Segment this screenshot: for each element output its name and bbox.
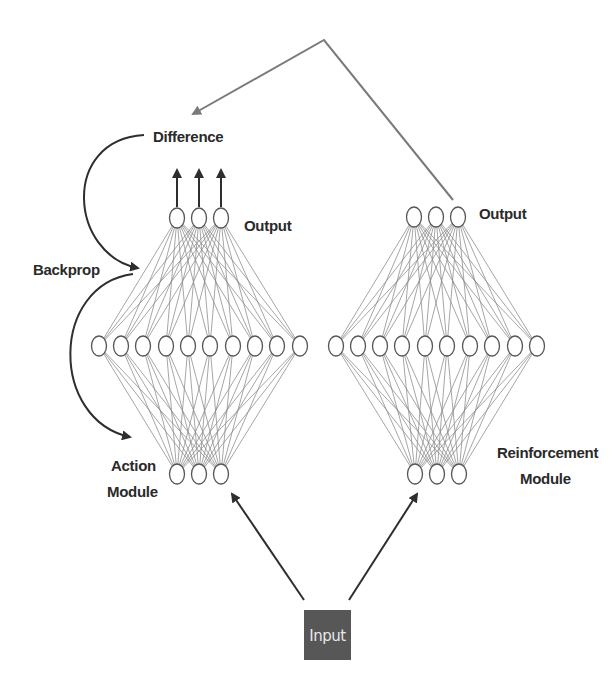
action-module-nodes	[92, 208, 308, 484]
connection-edge	[358, 217, 458, 346]
connection-edge	[336, 217, 436, 346]
input-node	[192, 464, 207, 484]
hidden-node	[530, 336, 545, 356]
connection-edge	[99, 218, 221, 346]
hidden-node	[485, 336, 500, 356]
input-node	[430, 464, 445, 484]
input-label: Input	[309, 627, 346, 645]
connection-edge	[380, 346, 415, 474]
action-module-label-line1: Action	[111, 457, 156, 474]
backprop-label: Backprop	[33, 261, 100, 278]
input-node	[452, 464, 467, 484]
output-node	[407, 207, 422, 227]
reinforcement-output-label: Output	[479, 205, 527, 222]
input-node	[408, 464, 423, 484]
reinforcement-module-nodes	[329, 207, 545, 484]
hidden-node	[248, 336, 263, 356]
hidden-node	[270, 336, 285, 356]
connection-edge	[336, 217, 458, 346]
hidden-node	[159, 336, 174, 356]
hidden-node	[440, 336, 455, 356]
backprop-curve-upper	[84, 135, 144, 268]
hidden-node	[92, 336, 107, 356]
hidden-node	[181, 336, 196, 356]
connection-edge	[358, 346, 415, 474]
connection-edge	[121, 346, 177, 474]
output-node	[192, 208, 207, 228]
connection-edge	[458, 217, 537, 346]
connection-edge	[221, 346, 300, 474]
connection-edge	[210, 218, 221, 346]
hidden-node	[463, 336, 478, 356]
connection-edge	[458, 217, 470, 346]
connection-edge	[436, 217, 515, 346]
input-node	[170, 464, 185, 484]
connection-edge	[447, 217, 458, 346]
hidden-node	[293, 336, 308, 356]
reinforcement-feedback-arrow	[193, 40, 453, 200]
action-output-label: Output	[244, 217, 292, 234]
output-node	[429, 207, 444, 227]
output-node	[170, 208, 185, 228]
connection-edge	[177, 346, 300, 474]
connection-edge	[177, 346, 188, 474]
input-node	[214, 464, 229, 484]
hidden-node	[395, 336, 410, 356]
connection-edge	[336, 217, 414, 346]
connection-edge	[99, 346, 177, 474]
hidden-node	[351, 336, 366, 356]
input-to-action-arrow	[232, 494, 304, 600]
hidden-node	[329, 336, 344, 356]
connection-edge	[177, 346, 277, 474]
hidden-node	[508, 336, 523, 356]
connection-edge	[221, 218, 300, 346]
hidden-node	[203, 336, 218, 356]
connection-edge	[221, 218, 277, 346]
hidden-node	[226, 336, 241, 356]
output-node	[451, 207, 466, 227]
neural-network-diagram: Input Difference Backprop Output Output …	[0, 0, 616, 695]
connection-edge	[99, 218, 177, 346]
hidden-node	[114, 336, 129, 356]
connection-edge	[99, 218, 199, 346]
connection-edge	[402, 346, 415, 474]
action-module-label-line2: Module	[107, 483, 158, 500]
reinforcement-module-label-line2: Module	[520, 470, 571, 487]
hidden-node	[136, 336, 151, 356]
connection-edge	[221, 218, 233, 346]
input-to-reinforcement-arrow	[349, 494, 417, 600]
connection-edge	[166, 218, 221, 346]
reinforcement-module-label-line1: Reinforcement	[497, 444, 598, 461]
hidden-node	[373, 336, 388, 356]
difference-label: Difference	[153, 128, 223, 145]
output-node	[214, 208, 229, 228]
hidden-node	[418, 336, 433, 356]
connection-edge	[336, 346, 415, 474]
reinforcement-module-connections	[336, 217, 537, 474]
